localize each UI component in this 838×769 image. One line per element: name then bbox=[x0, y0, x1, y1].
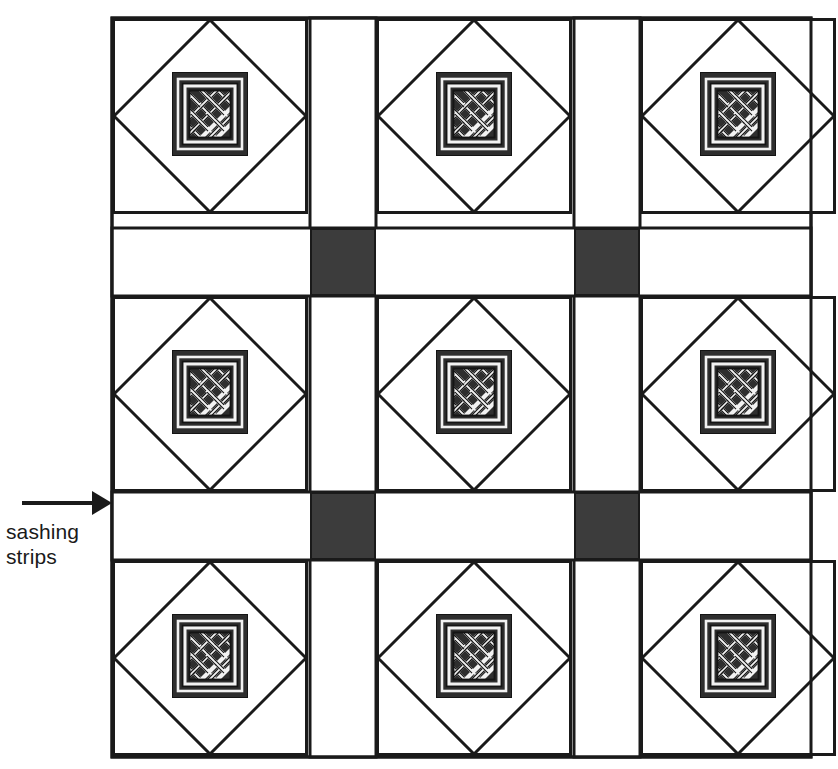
quilt-diagram: sashing strips bbox=[0, 0, 838, 769]
cornerstone-square bbox=[575, 493, 639, 559]
quilt-block bbox=[112, 296, 308, 492]
quilt-block bbox=[376, 18, 572, 214]
quilt-block bbox=[376, 560, 572, 756]
sashing-label-line-2: strips bbox=[6, 544, 110, 569]
cornerstone-square bbox=[311, 493, 375, 559]
sashing-label-line-1: sashing bbox=[6, 519, 110, 544]
quilt-block bbox=[640, 296, 836, 492]
sashing-strip-vertical bbox=[310, 18, 376, 757]
quilt-block bbox=[640, 18, 836, 214]
quilt-blocks bbox=[112, 18, 836, 756]
sashing-strip-horizontal bbox=[112, 228, 811, 296]
cornerstone-square bbox=[311, 229, 375, 295]
cornerstone-square bbox=[575, 229, 639, 295]
quilt-block bbox=[376, 296, 572, 492]
quilt-block bbox=[112, 560, 308, 756]
sashing-annotation-label: sashing strips bbox=[6, 519, 110, 569]
quilt-block bbox=[640, 560, 836, 756]
quilt-layout-svg bbox=[0, 0, 838, 769]
quilt-block bbox=[112, 18, 308, 214]
sashing-strip-horizontal bbox=[112, 492, 811, 560]
sashing-strip-vertical bbox=[574, 18, 640, 757]
